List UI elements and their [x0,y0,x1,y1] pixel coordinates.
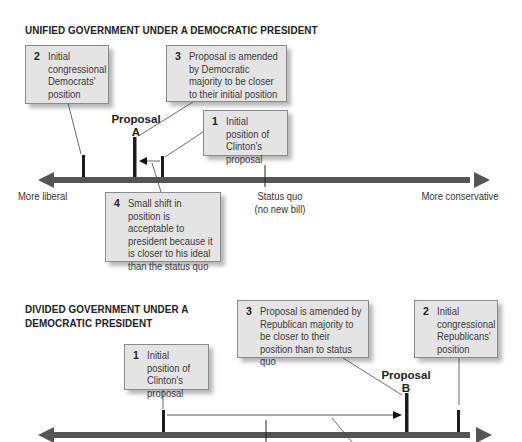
marker-clinton-initial-top [161,156,164,177]
arrow-left-icon [139,157,147,165]
top-axis-arrow [38,172,490,188]
marker-democrats-initial [82,155,85,177]
arrow-right-icon [393,411,402,419]
marker-clinton-initial-bottom [162,410,165,432]
bottom-axis-arrow [38,427,492,442]
marker-proposal-b [405,393,409,432]
marker-republicans-initial [457,410,460,432]
diagram-graphics [0,0,522,442]
marker-proposal-a [133,137,137,177]
